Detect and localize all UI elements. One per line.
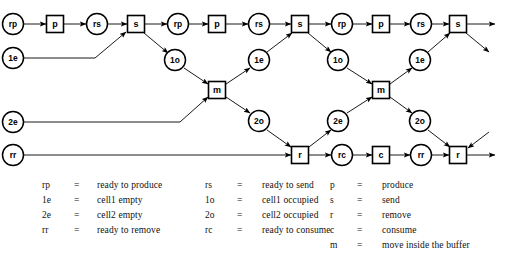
node-label: 2o	[415, 116, 425, 126]
node-2e: 2e	[3, 112, 24, 133]
node-rr: rr	[411, 145, 432, 166]
edge	[267, 130, 291, 147]
legend-equals: =	[237, 225, 242, 235]
node-label: p	[378, 19, 384, 29]
legend-symbol: c	[330, 225, 334, 235]
legend-symbol: r	[330, 210, 333, 220]
node-rs: rs	[411, 14, 432, 35]
legend-symbol: m	[330, 240, 338, 250]
legend-equals: =	[357, 210, 362, 220]
node-label: 1o	[170, 55, 180, 65]
legend-definition: cell2 occupied	[262, 210, 319, 220]
edge	[347, 97, 372, 113]
legend-definition: ready to consume	[262, 225, 331, 235]
node-1e: 1e	[3, 48, 24, 69]
node-s: s	[292, 16, 309, 33]
node-1e: 1e	[249, 50, 270, 71]
node-label: m	[213, 85, 221, 95]
edge	[226, 68, 250, 84]
node-label: rs	[255, 19, 263, 29]
diagram-svg: rpprssrpprssrpprss1e1o1e1o1emm2e2o2e2orr…	[0, 0, 517, 180]
legend-definition: send	[382, 195, 400, 205]
legend-definition: remove	[382, 210, 411, 220]
node-label: rs	[417, 19, 425, 29]
legend-equals: =	[357, 180, 362, 190]
legend-equals: =	[237, 195, 242, 205]
node-rp: rp	[332, 14, 353, 35]
node-m: m	[209, 82, 226, 99]
node-label: rr	[10, 150, 17, 160]
node-label: p	[214, 19, 220, 29]
edge	[347, 68, 372, 84]
legend-definition: produce	[382, 180, 413, 190]
node-rs: rs	[87, 14, 108, 35]
node-label: c	[378, 150, 383, 160]
node-r: r	[292, 147, 309, 164]
legend-symbol: 2o	[205, 210, 215, 220]
node-2e: 2e	[328, 111, 349, 132]
node-r: r	[450, 147, 467, 164]
legend-definition: consume	[382, 225, 416, 235]
legend-definition: move inside the buffer	[382, 240, 470, 250]
node-rp: rp	[168, 14, 189, 35]
legend-equals: =	[74, 180, 79, 190]
node-p: p	[373, 16, 390, 33]
node-label: rp	[338, 19, 346, 29]
node-p: p	[209, 16, 226, 33]
node-label: 2o	[254, 116, 264, 126]
node-label: rr	[418, 150, 425, 160]
node-label: s	[455, 19, 460, 29]
edge	[309, 130, 331, 147]
legend: rp=ready to produce1e=cell1 empty2e=cell…	[0, 178, 517, 258]
node-label: 1o	[333, 55, 343, 65]
node-label: rc	[338, 150, 346, 160]
node-label: s	[297, 19, 302, 29]
edge	[267, 33, 292, 52]
node-label: rp	[174, 19, 182, 29]
node-2o: 2o	[249, 111, 270, 132]
node-rc: rc	[332, 145, 353, 166]
node-label: 1e	[415, 55, 425, 65]
legend-symbol: rp	[42, 180, 50, 190]
node-m: m	[373, 82, 390, 99]
legend-symbol: rs	[205, 180, 212, 190]
node-layer: rpprssrpprssrpprss1e1o1e1o1emm2e2o2e2orr…	[3, 14, 467, 166]
legend-symbol: s	[330, 195, 334, 205]
node-p: p	[47, 16, 64, 33]
legend-symbol: p	[330, 180, 335, 190]
edge	[184, 68, 208, 84]
edge-layer	[24, 24, 495, 155]
legend-equals: =	[74, 210, 79, 220]
legend-equals: =	[74, 225, 79, 235]
node-s: s	[128, 16, 145, 33]
node-label: r	[298, 150, 302, 160]
legend-definition: cell2 empty	[97, 210, 143, 220]
node-1o: 1o	[165, 50, 186, 71]
legend-definition: ready to send	[262, 180, 314, 190]
node-label: rs	[93, 19, 101, 29]
node-label: m	[377, 85, 385, 95]
node-label: r	[456, 150, 460, 160]
node-1e: 1e	[410, 50, 431, 71]
node-rs: rs	[249, 14, 270, 35]
node-c: c	[373, 147, 390, 164]
edge	[226, 97, 250, 113]
node-label: p	[52, 19, 58, 29]
node-label: 1e	[254, 55, 264, 65]
edge	[144, 33, 168, 53]
node-rp: rp	[3, 14, 24, 35]
edge	[308, 33, 331, 52]
node-label: 2e	[333, 116, 343, 126]
edge	[390, 68, 412, 84]
edge	[390, 97, 412, 113]
node-rr: rr	[3, 145, 24, 166]
node-label: 1e	[8, 53, 18, 63]
legend-definition: ready to remove	[97, 225, 160, 235]
legend-symbol: 1o	[205, 195, 215, 205]
process-diagram: rpprssrpprssrpprss1e1o1e1o1emm2e2o2e2orr…	[0, 0, 517, 180]
legend-definition: cell1 occupied	[262, 195, 319, 205]
node-2o: 2o	[410, 111, 431, 132]
legend-symbol: 1e	[42, 195, 51, 205]
legend-equals: =	[237, 180, 242, 190]
legend-definition: cell1 empty	[97, 195, 143, 205]
